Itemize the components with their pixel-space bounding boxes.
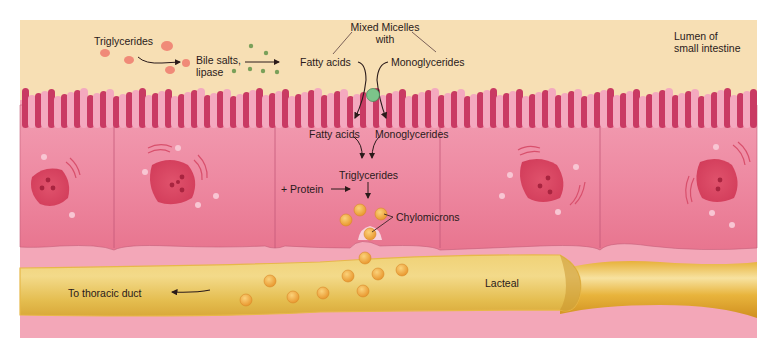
label-to-thoracic-duct: To thoracic duct: [68, 287, 142, 299]
label-lipase: lipase: [196, 66, 223, 78]
label-triglycerides-lumen: Triglycerides: [94, 35, 153, 47]
label-lumen-line1: Lumen of: [674, 30, 718, 42]
label-with: with: [340, 33, 430, 45]
label-chylomicrons: Chylomicrons: [396, 211, 460, 223]
label-protein: + Protein: [281, 183, 323, 195]
label-bile-salts: Bile salts,: [196, 54, 241, 66]
label-mixed-micelles: Mixed Micelles: [340, 21, 430, 33]
label-lumen-line2: small intestine: [674, 42, 741, 54]
label-fatty-acids-lumen: Fatty acids: [300, 56, 351, 68]
label-fatty-acids-cell: Fatty acids: [309, 128, 360, 140]
label-monoglycerides-cell: Monoglycerides: [375, 128, 449, 140]
fat-absorption-diagram: Triglycerides Bile salts, lipase Mixed M…: [0, 0, 774, 351]
label-lacteal: Lacteal: [485, 277, 519, 289]
micelle: [367, 89, 380, 102]
label-triglycerides-cell: Triglycerides: [339, 169, 398, 181]
label-monoglycerides-lumen: Monoglycerides: [391, 56, 465, 68]
